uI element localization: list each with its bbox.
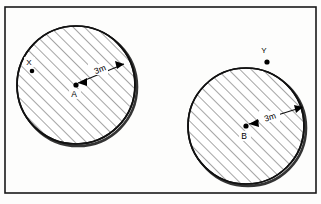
figure-container: 3m A X 3m B xyxy=(0,0,321,204)
point-x-dot xyxy=(30,69,35,74)
circle-a-center-label: A xyxy=(71,89,77,99)
point-y-dot xyxy=(264,59,269,64)
geometry-diagram: 3m A X 3m B xyxy=(0,0,321,204)
circle-b-center-label: B xyxy=(241,131,247,141)
point-y-label: Y xyxy=(261,46,267,55)
circle-a-center-dot xyxy=(73,82,78,87)
circle-b-center-dot xyxy=(243,123,248,128)
point-x-label: X xyxy=(26,58,32,67)
